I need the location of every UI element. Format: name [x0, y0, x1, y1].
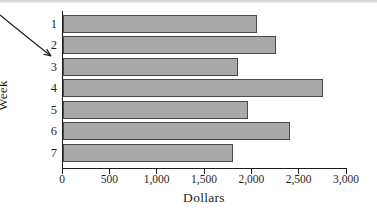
bar-week-7	[63, 144, 233, 162]
y-axis-line	[62, 11, 63, 169]
bar-week-1	[63, 15, 257, 33]
y-tick-label-week-1: 1	[37, 16, 57, 32]
x-tick-label-2,000: 2,000	[227, 173, 275, 185]
y-tick-label-week-2: 2	[37, 37, 57, 53]
bar-week-5	[63, 101, 248, 119]
y-tick-label-week-5: 5	[37, 102, 57, 118]
bar-week-3	[63, 58, 238, 76]
bar-week-2	[63, 36, 276, 54]
y-tick-label-week-3: 3	[37, 59, 57, 75]
bar-week-6	[63, 122, 290, 140]
y-axis-title: Week	[0, 66, 10, 126]
x-axis-title: Dollars	[164, 190, 244, 206]
x-tick-label-1,000: 1,000	[133, 173, 181, 185]
x-tick-label-3,000: 3,000	[322, 173, 370, 185]
plot-area	[62, 11, 346, 168]
y-tick-label-week-7: 7	[37, 145, 57, 161]
bar-week-4	[63, 79, 323, 97]
x-tick-label-2,500: 2,500	[275, 173, 323, 185]
x-tick-label-1,500: 1,500	[180, 173, 228, 185]
bar-chart-figure: 1234567 05001,0001,5002,0002,5003,000 We…	[0, 0, 377, 213]
y-tick-label-week-6: 6	[37, 123, 57, 139]
y-tick-label-week-4: 4	[37, 80, 57, 96]
x-tick-label-500: 500	[85, 173, 133, 185]
annotation-arrow-icon	[0, 0, 62, 66]
x-tick-label-0: 0	[38, 173, 86, 185]
